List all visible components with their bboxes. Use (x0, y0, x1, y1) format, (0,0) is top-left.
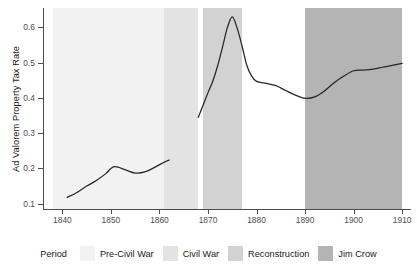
y-tick-label: 0.6 (5, 22, 35, 32)
x-tick-label: 1840 (42, 215, 82, 225)
x-tick-mark (111, 210, 112, 214)
legend: Period Pre-Civil WarCivil WarReconstruct… (0, 246, 417, 261)
y-tick-mark (38, 98, 43, 99)
x-tick-label: 1910 (382, 215, 417, 225)
x-tick-mark (354, 210, 355, 214)
series-line-postbellum (198, 17, 402, 118)
x-tick-mark (159, 210, 160, 214)
y-tick-label: 0.4 (5, 93, 35, 103)
x-axis-line (43, 209, 411, 210)
legend-item-reconstruction[interactable]: Reconstruction (228, 246, 309, 261)
x-tick-mark (62, 210, 63, 214)
x-tick-mark (257, 210, 258, 214)
x-tick-mark (208, 210, 209, 214)
legend-item-jim-crow[interactable]: Jim Crow (318, 246, 376, 261)
x-tick-label: 1900 (334, 215, 374, 225)
x-tick-label: 1850 (91, 215, 131, 225)
y-tick-label: 0.1 (5, 199, 35, 209)
y-axis-title: Ad Valorem Property Tax Rate (11, 9, 21, 209)
series-line-antebellum (67, 160, 169, 197)
legend-item-label: Jim Crow (338, 249, 376, 259)
x-tick-mark (305, 210, 306, 214)
y-tick-mark (38, 133, 43, 134)
y-tick-mark (38, 63, 43, 64)
legend-swatch-icon (318, 246, 333, 261)
plot-area (43, 8, 407, 209)
legend-swatch-icon (163, 246, 178, 261)
legend-swatch-icon (80, 246, 95, 261)
x-tick-label: 1860 (139, 215, 179, 225)
y-tick-label: 0.3 (5, 128, 35, 138)
x-tick-label: 1870 (188, 215, 228, 225)
legend-item-label: Civil War (183, 249, 219, 259)
legend-item-pre-civil-war[interactable]: Pre-Civil War (80, 246, 154, 261)
legend-title: Period (40, 249, 67, 259)
legend-item-civil-war[interactable]: Civil War (163, 246, 219, 261)
y-axis-line (43, 8, 44, 210)
y-tick-mark (38, 204, 43, 205)
y-tick-label: 0.2 (5, 163, 35, 173)
x-tick-label: 1890 (285, 215, 325, 225)
y-tick-mark (38, 168, 43, 169)
y-tick-label: 0.5 (5, 58, 35, 68)
x-tick-label: 1880 (237, 215, 277, 225)
legend-swatch-icon (228, 246, 243, 261)
line-series-layer (43, 8, 407, 209)
chart-container: Ad Valorem Property Tax Rate 0.10.20.30.… (0, 0, 417, 274)
x-tick-mark (402, 210, 403, 214)
legend-item-label: Reconstruction (248, 249, 309, 259)
y-tick-mark (38, 27, 43, 28)
legend-item-label: Pre-Civil War (100, 249, 154, 259)
